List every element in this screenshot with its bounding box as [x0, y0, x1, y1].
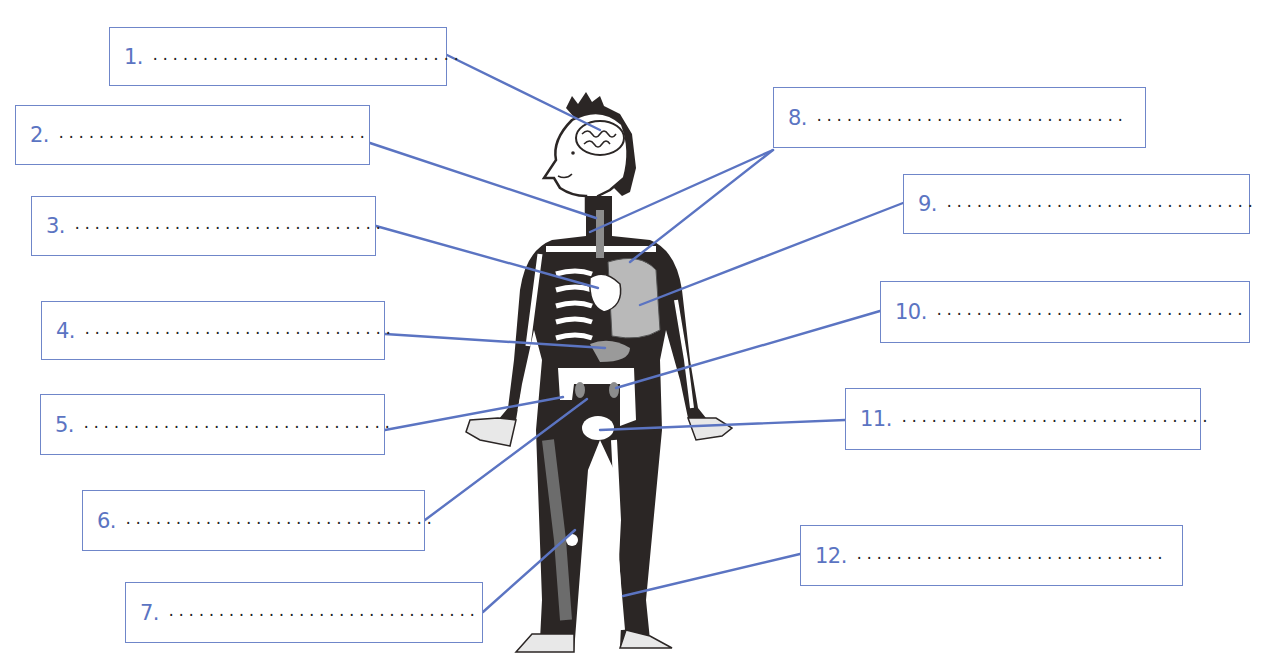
label-box-5[interactable]: 5. ...............................: [40, 394, 385, 455]
leader-line-11: [600, 420, 845, 430]
leader-line-2: [370, 143, 596, 218]
answer-blank[interactable]: ...............................: [151, 47, 462, 63]
label-number: 6.: [97, 509, 116, 533]
label-number: 5.: [55, 413, 74, 437]
answer-blank[interactable]: ...............................: [945, 194, 1256, 210]
label-box-4[interactable]: 4. ...............................: [41, 301, 385, 360]
label-number: 3.: [46, 214, 65, 238]
label-number: 12.: [815, 544, 847, 568]
leader-line-8a: [590, 150, 773, 232]
label-number: 8.: [788, 106, 807, 130]
label-number: 4.: [56, 319, 75, 343]
label-box-1[interactable]: 1. ...............................: [109, 27, 447, 86]
answer-blank[interactable]: ...............................: [935, 302, 1246, 318]
label-box-9[interactable]: 9. ...............................: [903, 174, 1250, 234]
answer-blank[interactable]: ...............................: [855, 546, 1166, 562]
label-number: 2.: [30, 123, 49, 147]
label-number: 7.: [140, 601, 159, 625]
answer-blank[interactable]: ...............................: [83, 321, 394, 337]
label-number: 10.: [895, 300, 927, 324]
answer-blank[interactable]: ...............................: [124, 511, 435, 527]
label-box-6[interactable]: 6. ...............................: [82, 490, 425, 551]
leader-line-7: [483, 530, 575, 612]
label-box-3[interactable]: 3. ...............................: [31, 196, 376, 256]
label-box-8[interactable]: 8. ...............................: [773, 87, 1146, 148]
label-box-10[interactable]: 10. ...............................: [880, 281, 1250, 343]
leader-line-4: [385, 334, 605, 348]
label-number: 9.: [918, 192, 937, 216]
label-number: 1.: [124, 45, 143, 69]
answer-blank[interactable]: ...............................: [900, 409, 1211, 425]
label-box-11[interactable]: 11. ...............................: [845, 388, 1201, 450]
answer-blank[interactable]: ...............................: [815, 108, 1126, 124]
label-number: 11.: [860, 407, 892, 431]
leader-line-12: [623, 554, 800, 596]
leader-line-1: [447, 55, 600, 130]
label-box-2[interactable]: 2. ...............................: [15, 105, 370, 165]
answer-blank[interactable]: ...............................: [167, 603, 478, 619]
leader-line-8b: [630, 150, 773, 262]
label-box-7[interactable]: 7. ...............................: [125, 582, 483, 643]
answer-blank[interactable]: ...............................: [57, 125, 368, 141]
worksheet-stage: 1. ............................... 2. ..…: [0, 0, 1271, 669]
leader-line-9: [640, 203, 903, 305]
label-box-12[interactable]: 12. ...............................: [800, 525, 1183, 586]
answer-blank[interactable]: ...............................: [82, 415, 393, 431]
leader-line-3: [376, 226, 598, 288]
answer-blank[interactable]: ...............................: [73, 216, 384, 232]
leader-line-10: [616, 311, 880, 388]
leader-line-5: [385, 397, 563, 430]
